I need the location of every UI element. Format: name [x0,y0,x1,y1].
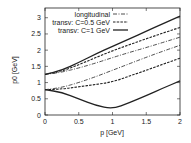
legend-label: longitudinal [75,11,111,19]
legend: longitudinaltransv: C=0.5 GeVtransv: C=1… [52,11,128,34]
svg-text:3: 3 [37,14,41,21]
curve-lower [45,45,180,89]
svg-text:1: 1 [111,118,115,125]
svg-text:1: 1 [37,79,41,86]
svg-text:2: 2 [178,118,182,125]
legend-label: transv: C=1 GeV [58,27,110,34]
svg-text:2.5: 2.5 [31,30,41,37]
svg-text:0.5: 0.5 [74,118,84,125]
svg-text:2: 2 [37,47,41,54]
line-chart: 00.511.5200.511.522.53 longitudinaltrans… [0,0,191,143]
curve-upper [45,27,180,74]
curve-lower [45,58,180,89]
svg-text:1.5: 1.5 [141,118,151,125]
svg-text:0: 0 [43,118,47,125]
svg-text:0: 0 [37,112,41,119]
svg-text:0.5: 0.5 [31,95,41,102]
svg-text:1.5: 1.5 [31,63,41,70]
legend-label: transv: C=0.5 GeV [52,19,110,26]
y-axis-label: p0 [GeV] [11,56,19,84]
curve-lower [45,81,180,108]
x-axis-label: p [GeV] [100,129,124,137]
